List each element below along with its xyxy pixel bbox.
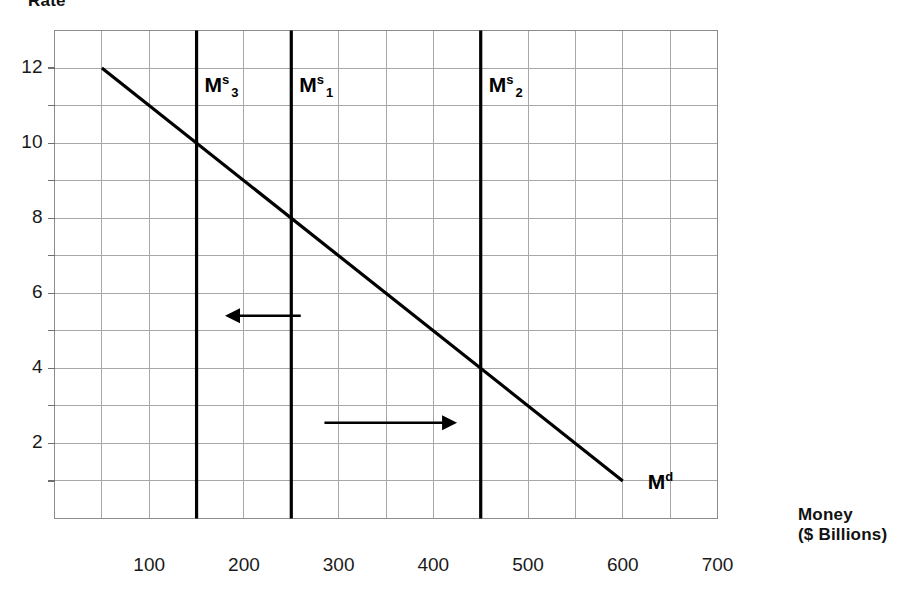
demand-curve-label: Md	[648, 469, 673, 494]
y-tick-label: 10	[9, 131, 43, 153]
demand-line-Md	[102, 68, 623, 481]
x-tick-label: 500	[504, 554, 552, 576]
curve-label-subscript: 2	[515, 85, 522, 100]
y-tick-label: 2	[9, 431, 43, 453]
arrow-right-head	[442, 415, 457, 430]
demand-curve	[102, 68, 623, 481]
supply-curve-1-label: Ms1	[299, 72, 333, 100]
x-tick-label: 300	[315, 554, 363, 576]
curve-label-superscript: s	[317, 72, 324, 87]
x-tick-label: 200	[220, 554, 268, 576]
curve-label-superscript: s	[506, 72, 513, 87]
y-tick-label: 4	[9, 356, 43, 378]
axis-tick-marks	[48, 68, 55, 481]
supply-curve-2-label: Ms2	[489, 72, 523, 100]
curve-label-base: M	[648, 470, 666, 493]
x-tick-label: 700	[694, 554, 742, 576]
shift-arrows	[225, 308, 457, 430]
y-tick-label: 8	[9, 206, 43, 228]
chart-canvas: Rate Money($ Billions) 12108642 10020030…	[0, 0, 924, 613]
y-tick-label: 6	[9, 281, 43, 303]
curve-label-superscript: d	[665, 469, 673, 484]
curve-label-base: M	[489, 73, 507, 96]
plot-area	[0, 0, 924, 613]
x-tick-label: 100	[125, 554, 173, 576]
supply-curve-3-label: Ms3	[205, 72, 239, 100]
curve-label-subscript: 3	[231, 85, 238, 100]
y-tick-label: 12	[9, 56, 43, 78]
gridlines	[55, 31, 718, 519]
x-tick-label: 600	[599, 554, 647, 576]
x-tick-label: 400	[409, 554, 457, 576]
curve-label-subscript: 1	[326, 85, 333, 100]
curve-label-superscript: s	[222, 72, 229, 87]
arrow-left-head	[225, 308, 240, 323]
curve-label-base: M	[205, 73, 223, 96]
curve-label-base: M	[299, 73, 317, 96]
